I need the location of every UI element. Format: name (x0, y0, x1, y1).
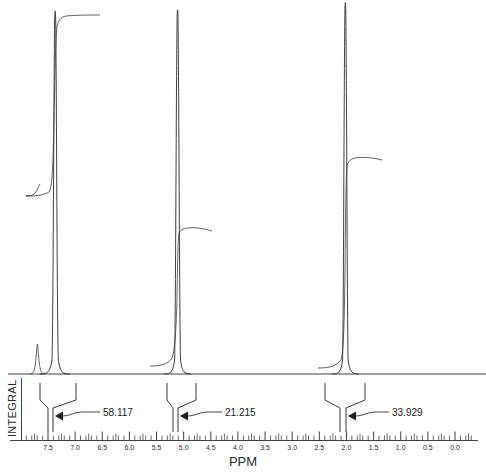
ppm-tick-label-group: 7.57.06.56.05.55.04.54.03.53.02.52.01.51… (43, 444, 460, 451)
integral-value-3: 33.929 (392, 407, 423, 418)
peak-trace-1-shoulder (30, 344, 45, 374)
integral-value-1: 58.117 (103, 407, 133, 418)
ppm-tick-label: 3.5 (260, 444, 270, 451)
ppm-tick-label: 1.0 (396, 444, 406, 451)
integral-annotation-2: 21.215 (180, 407, 256, 421)
integral-bracket-3 (325, 383, 365, 432)
integral-bracket-2 (167, 383, 196, 432)
integral-leader-2 (188, 412, 222, 416)
ppm-tick-group (26, 432, 471, 441)
integral-bracket-1-left (40, 383, 48, 432)
ppm-tick-label: 4.0 (233, 444, 243, 451)
ppm-axis: 7.57.06.56.05.55.04.54.03.53.02.52.01.51… (10, 432, 478, 470)
integral-bracket-2-right (178, 383, 196, 432)
integral-panel: INTEGRAL 58.117 (6, 378, 423, 440)
nmr-spectrum-figure: INTEGRAL 58.117 (0, 0, 486, 476)
spectrum-trace-group (8, 3, 486, 375)
ppm-tick-label: 6.0 (125, 444, 135, 451)
ppm-tick-label: 0.0 (450, 444, 460, 451)
integral-leader-1 (63, 412, 100, 416)
integral-curve-3 (318, 157, 382, 368)
integral-leader-3 (356, 412, 389, 416)
ppm-tick-label: 2.5 (314, 444, 324, 451)
ppm-tick-label: 4.5 (206, 444, 216, 451)
integral-arrow-1 (55, 412, 63, 421)
ppm-tick-label: 6.5 (97, 444, 107, 451)
spectrum-canvas: INTEGRAL 58.117 (0, 0, 486, 476)
integral-arrow-3 (348, 412, 356, 421)
peak-trace-3 (332, 3, 359, 375)
integral-curve-1 (26, 15, 100, 196)
integral-bracket-1-right (53, 383, 76, 432)
integral-bracket-3-left (325, 383, 340, 432)
ppm-tick-label: 5.5 (152, 444, 162, 451)
integral-annotation-1: 58.117 (55, 407, 133, 421)
integral-curve-2 (150, 228, 212, 366)
ppm-tick-label: 5.0 (179, 444, 189, 451)
integral-bracket-2-left (167, 383, 173, 432)
ppm-tick-label: 0.5 (423, 444, 433, 451)
ppm-tick-label: 2.0 (342, 444, 352, 451)
integral-bracket-1 (40, 383, 76, 432)
integral-arrow-2 (180, 412, 188, 421)
integral-axis-label: INTEGRAL (6, 380, 18, 437)
integral-bracket-3-right (346, 383, 365, 432)
integral-annotation-3: 33.929 (348, 407, 423, 421)
integral-value-2: 21.215 (225, 407, 256, 418)
peak-trace-2 (164, 10, 191, 374)
integral-curves-group (26, 15, 382, 368)
integral-curve-1-shoulder (26, 184, 40, 196)
ppm-axis-title: PPM (229, 454, 257, 469)
ppm-tick-label: 7.5 (43, 444, 53, 451)
ppm-tick-label: 3.0 (287, 444, 297, 451)
ppm-tick-label: 1.5 (369, 444, 379, 451)
ppm-tick-label: 7.0 (70, 444, 80, 451)
